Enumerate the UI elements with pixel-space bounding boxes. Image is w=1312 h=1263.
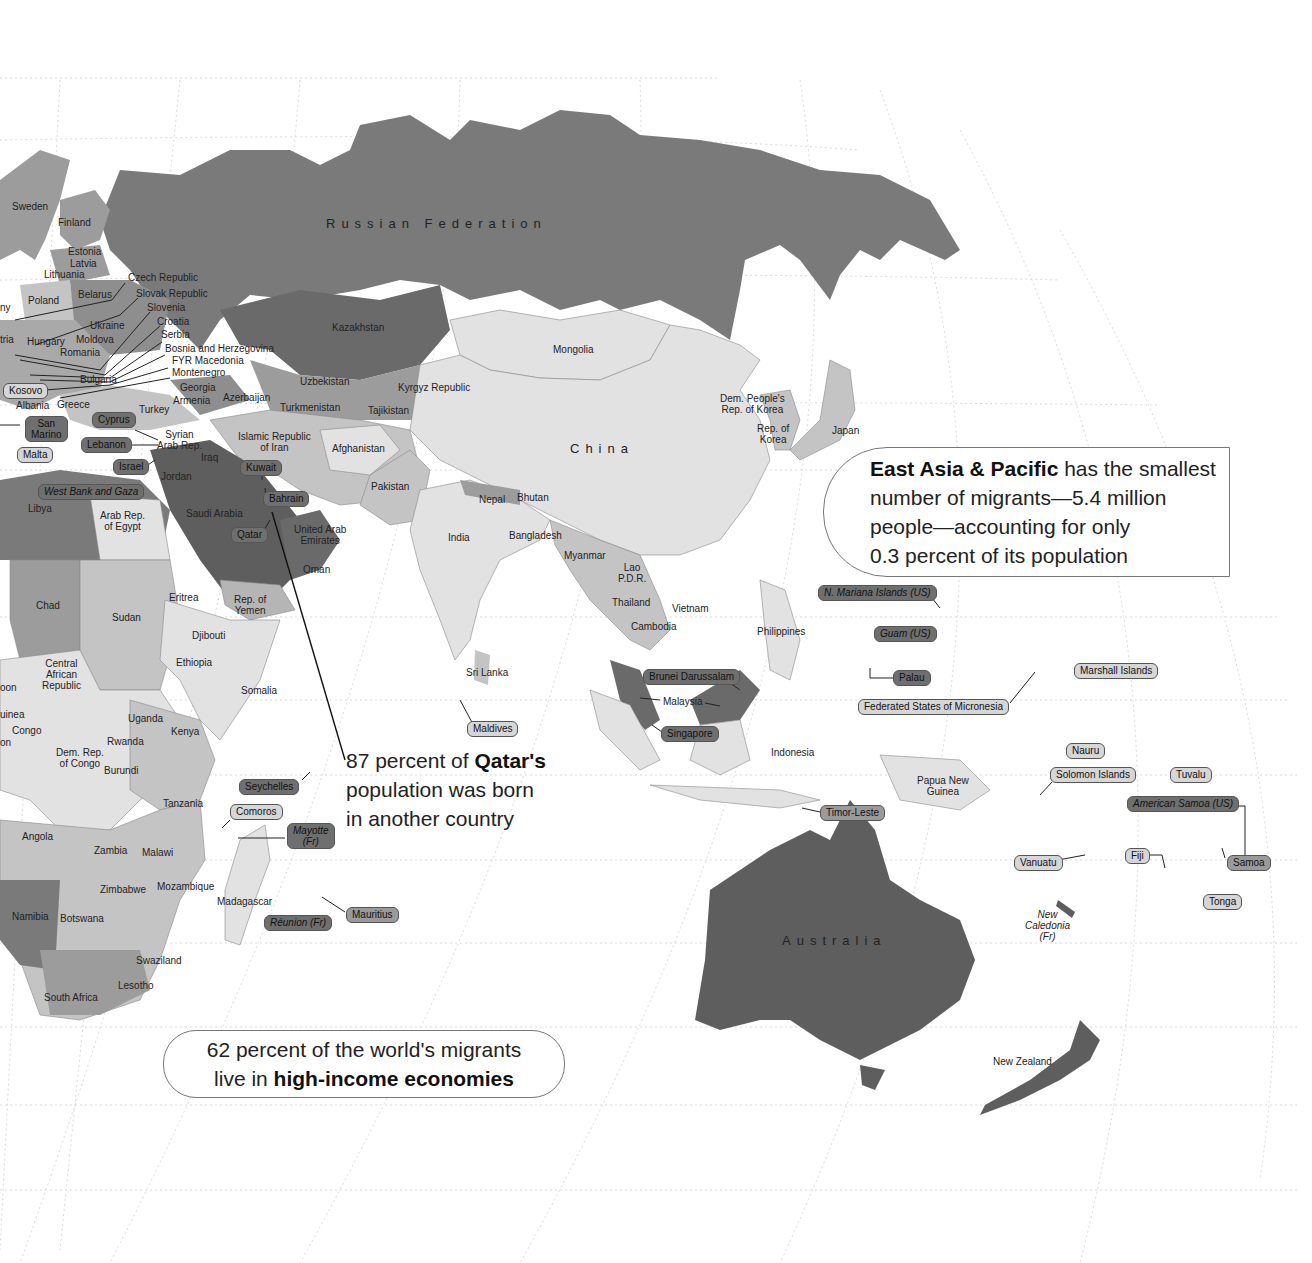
label-fyr-macedonia: FYR Macedonia <box>172 355 244 366</box>
label-tanzania: Tanzania <box>163 798 203 809</box>
boxed-label-kosovo: Kosovo <box>3 383 48 399</box>
label-romania: Romania <box>60 347 100 358</box>
boxed-label-timor-leste: Timor-Leste <box>820 805 885 821</box>
label-somalia: Somalia <box>241 685 277 696</box>
label-bulgaria: Bulgaria <box>80 374 117 385</box>
boxed-label-seychelles: Seychelles <box>239 779 299 795</box>
label-cameroon-partial: on <box>0 737 11 748</box>
boxed-label-mayotte: Mayotte (Fr) <box>287 823 335 849</box>
label-montenegro: Montenegro <box>172 367 225 378</box>
boxed-label-micronesia: Federated States of Micronesia <box>858 699 1009 715</box>
boxed-label-nauru: Nauru <box>1066 743 1105 759</box>
label-belarus: Belarus <box>78 289 112 300</box>
label-saudi-arabia: Saudi Arabia <box>186 508 243 519</box>
label-malawi: Malawi <box>142 847 173 858</box>
label-mongolia: Mongolia <box>553 344 594 355</box>
boxed-label-kuwait: Kuwait <box>240 460 282 476</box>
label-uzbekistan: Uzbekistan <box>300 376 349 387</box>
label-finland: Finland <box>58 217 91 228</box>
label-bangladesh: Bangladesh <box>509 530 562 541</box>
boxed-label-lebanon: Lebanon <box>81 437 132 453</box>
label-albania: Albania <box>16 400 49 411</box>
label-rep-of-korea: Rep. of Korea <box>757 423 789 445</box>
callout-high-income-line2: live in <box>214 1067 274 1090</box>
label-djibouti: Djibouti <box>192 630 225 641</box>
label-dem-rep-congo: Dem. Rep. of Congo <box>56 747 104 769</box>
boxed-label-n-mariana-islands: N. Mariana Islands (US) <box>818 585 937 601</box>
label-zimbabwe: Zimbabwe <box>100 884 146 895</box>
boxed-label-bahrain: Bahrain <box>263 491 309 507</box>
label-india: India <box>448 532 470 543</box>
indonesia-islands <box>650 785 820 808</box>
label-czech-republic: Czech Republic <box>128 272 198 283</box>
label-kenya: Kenya <box>171 726 199 737</box>
callout-high-income-bold: high-income economies <box>274 1067 514 1090</box>
label-greece: Greece <box>57 399 90 410</box>
label-poland: Poland <box>28 295 59 306</box>
callout-east-asia-line4: 0.3 percent of its population <box>870 541 1216 570</box>
label-botswana: Botswana <box>60 913 104 924</box>
label-namibia: Namibia <box>12 911 49 922</box>
label-new-caledonia: New Caledonia (Fr) <box>1025 909 1070 942</box>
label-austria-partial: tria <box>0 334 14 345</box>
label-russian-federation: Russian Federation <box>326 218 547 229</box>
label-sudan: Sudan <box>112 612 141 623</box>
label-angola: Angola <box>22 831 53 842</box>
label-zambia: Zambia <box>94 845 127 856</box>
label-oman: Oman <box>303 564 330 575</box>
label-turkmenistan: Turkmenistan <box>280 402 340 413</box>
label-new-zealand: New Zealand <box>993 1056 1052 1067</box>
boxed-label-singapore: Singapore <box>661 726 719 742</box>
boxed-label-maldives: Maldives <box>467 721 518 737</box>
callout-qatar-line3: in another country <box>346 804 546 833</box>
label-moldova: Moldova <box>76 334 114 345</box>
label-nepal: Nepal <box>479 494 505 505</box>
label-bosnia-herzegovina: Bosnia and Herzegovina <box>165 343 274 354</box>
label-philippines: Philippines <box>757 626 805 637</box>
callout-east-asia-line2: number of migrants—5.4 million <box>870 483 1216 512</box>
callout-text-high-income: 62 percent of the world's migrants live … <box>164 1035 564 1093</box>
boxed-label-palau: Palau <box>893 670 931 686</box>
label-malaysia: Malaysia <box>663 696 702 707</box>
label-burundi: Burundi <box>104 765 138 776</box>
country-tasmania <box>860 1065 885 1090</box>
landmass-oceania <box>695 800 1100 1115</box>
label-yemen: Rep. of Yemen <box>234 594 266 616</box>
boxed-label-mauritius: Mauritius <box>346 907 399 923</box>
label-chad: Chad <box>36 600 60 611</box>
label-cambodia: Cambodia <box>631 621 677 632</box>
label-germany-partial: ny <box>0 302 11 313</box>
label-serbia: Serbia <box>161 329 190 340</box>
country-madagascar <box>225 825 270 945</box>
callout-east-asia-bold: East Asia & Pacific <box>870 457 1058 480</box>
label-latvia: Latvia <box>70 258 97 269</box>
label-tajikistan: Tajikistan <box>368 405 409 416</box>
callout-box-high-income: 62 percent of the world's migrants live … <box>163 1030 565 1098</box>
label-kazakhstan: Kazakhstan <box>332 322 384 333</box>
label-estonia: Estonia <box>68 246 101 257</box>
label-bhutan: Bhutan <box>517 492 549 503</box>
label-south-africa: South Africa <box>44 992 98 1003</box>
callout-box-east-asia-pacific: East Asia & Pacific has the smallest num… <box>823 447 1230 577</box>
label-uganda: Uganda <box>128 713 163 724</box>
callout-qatar: 87 percent of Qatar's population was bor… <box>346 746 546 833</box>
label-afghanistan: Afghanistan <box>332 443 385 454</box>
boxed-label-samoa: Samoa <box>1227 855 1271 871</box>
label-madagascar: Madagascar <box>217 896 272 907</box>
label-rwanda: Rwanda <box>107 736 144 747</box>
boxed-label-qatar: Qatar <box>231 527 268 543</box>
label-slovak-republic: Slovak Republic <box>136 288 208 299</box>
label-vietnam: Vietnam <box>672 603 709 614</box>
label-jordan: Jordan <box>161 471 192 482</box>
label-indonesia: Indonesia <box>771 747 814 758</box>
country-india <box>410 480 550 660</box>
label-lao-pdr: Lao P.D.R. <box>618 562 646 584</box>
label-myanmar: Myanmar <box>564 550 606 561</box>
label-turkey: Turkey <box>139 404 169 415</box>
callout-qatar-bold: Qatar's <box>474 749 546 772</box>
boxed-label-tonga: Tonga <box>1203 894 1242 910</box>
label-armenia: Armenia <box>173 395 210 406</box>
boxed-label-fiji: Fiji <box>1125 848 1150 864</box>
label-dprk: Dem. People's Rep. of Korea <box>720 393 785 415</box>
label-ethiopia: Ethiopia <box>176 657 212 668</box>
